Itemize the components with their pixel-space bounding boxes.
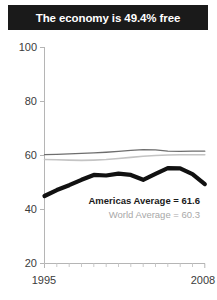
x-tick-marks <box>45 264 205 269</box>
y-tick-label-40: 40 <box>25 203 37 215</box>
legend-americas-average: Americas Average = 61.6 <box>88 195 200 206</box>
y-tick-label-60: 60 <box>25 149 37 161</box>
page-title: The economy is 49.4% free <box>36 12 181 24</box>
economic-freedom-chart-card: The economy is 49.4% free 100 80 60 40 2… <box>0 0 217 300</box>
plot-area: 100 80 60 40 20 <box>0 36 217 300</box>
y-tick-label-100: 100 <box>19 41 37 53</box>
y-tick-label-20: 20 <box>25 257 37 269</box>
y-tick-label-80: 80 <box>25 95 37 107</box>
legend-world-average: World Average = 60.3 <box>109 209 200 220</box>
x-tick-label-end: 2008 <box>191 274 215 286</box>
chart-title-banner: The economy is 49.4% free <box>8 5 208 30</box>
x-tick-label-start: 1995 <box>32 274 56 286</box>
series-line-world-average <box>45 155 205 161</box>
series-line-country <box>45 168 205 196</box>
chart-svg: 100 80 60 40 20 <box>0 36 217 300</box>
